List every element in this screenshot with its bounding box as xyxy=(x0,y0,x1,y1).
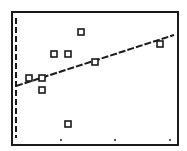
scatter-points xyxy=(26,29,163,127)
x-tick-dot xyxy=(114,139,116,141)
graph-screen xyxy=(0,0,187,151)
x-tick-dot xyxy=(169,139,171,141)
x-tick-dot xyxy=(60,139,62,141)
data-point xyxy=(92,59,98,65)
x-tick-marks xyxy=(60,139,171,141)
data-point xyxy=(39,87,45,93)
data-point xyxy=(65,121,71,127)
data-point xyxy=(78,29,84,35)
data-point xyxy=(39,75,45,81)
data-point xyxy=(157,41,163,47)
data-point xyxy=(51,51,57,57)
data-point xyxy=(26,75,32,81)
data-point xyxy=(65,51,71,57)
